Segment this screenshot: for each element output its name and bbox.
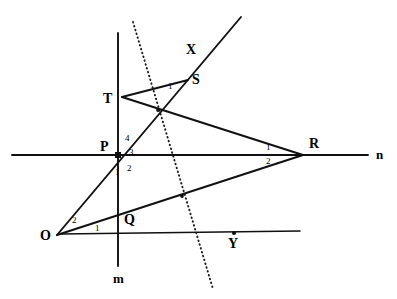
point-label-Q: Q: [124, 212, 135, 227]
point-label-Y: Y: [228, 236, 238, 251]
angle-label-s-1: 1: [168, 81, 173, 91]
point-label-O: O: [40, 228, 51, 243]
intersection-TR-OX: [156, 108, 160, 112]
angle-label-p-2: 2: [127, 163, 132, 173]
angle-label-p-3: 3: [129, 147, 134, 157]
figure-background: [0, 0, 397, 299]
angle-label-p-1: 1: [115, 167, 120, 177]
point-label-S: S: [192, 72, 200, 87]
angle-label-r-2: 2: [266, 156, 271, 166]
point-label-P: P: [100, 139, 109, 154]
geometry-canvas: O P Q R S T X Y m n 4 3 2 1 1 2 2 1 1: [0, 0, 397, 299]
intersection-OR-dotted: [180, 194, 184, 198]
angle-label-o-2: 2: [72, 215, 77, 225]
point-label-X: X: [186, 42, 196, 57]
vertex-marker-Y: [232, 231, 236, 235]
point-label-T: T: [103, 91, 113, 106]
line-label-m: m: [113, 271, 124, 286]
angle-label-r-1: 1: [266, 142, 271, 152]
geometry-figure: O P Q R S T X Y m n 4 3 2 1 1 2 2 1 1: [0, 0, 397, 299]
angle-label-p-4: 4: [125, 133, 130, 143]
angle-label-o-1: 1: [95, 223, 100, 233]
line-label-n: n: [376, 147, 384, 162]
vertex-marker-P: [115, 152, 121, 158]
point-label-R: R: [309, 136, 320, 151]
